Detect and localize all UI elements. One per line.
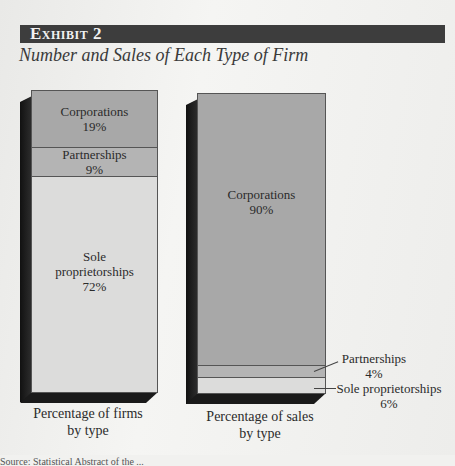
firms-bar-shadow-bottom (20, 392, 158, 403)
caption-line2: by type (18, 422, 158, 439)
callout-value: 6% (333, 396, 445, 411)
segment-label-line1: Sole (83, 249, 106, 264)
sales-bar-caption: Percentage of sales by type (190, 408, 330, 442)
segment-label-line2: proprietorships (55, 264, 134, 279)
sales-callout-sole-proprietorships: Sole proprietorships 6% (333, 381, 445, 411)
sales-segment-partnerships (198, 366, 325, 378)
firms-bar-face: Corporations 19% Partnerships 9% Sole pr… (31, 90, 158, 393)
segment-value: 9% (86, 162, 103, 177)
callout-label: Partnerships (334, 351, 414, 366)
callout-value: 4% (334, 366, 414, 381)
firms-bar-caption: Percentage of firms by type (18, 405, 158, 439)
segment-label: Corporations (228, 187, 296, 202)
caption-line1: Percentage of sales (190, 408, 330, 425)
callout-label: Sole proprietorships (333, 381, 445, 396)
segment-value: 19% (83, 119, 107, 134)
sales-callout-partnerships: Partnerships 4% (334, 351, 414, 381)
sales-bar-face: Corporations 90% (197, 93, 326, 394)
caption-line1: Percentage of firms (18, 405, 158, 422)
segment-value: 90% (250, 202, 274, 217)
caption-line2: by type (190, 425, 330, 442)
firms-segment-corporations: Corporations 19% (32, 91, 157, 148)
segment-label: Partnerships (62, 147, 126, 162)
firms-segment-sole-proprietorships: Sole proprietorships 72% (32, 177, 157, 392)
sales-bar-shadow-bottom (186, 393, 326, 404)
sales-segment-sole-proprietorships (198, 378, 325, 393)
firms-segment-partnerships: Partnerships 9% (32, 148, 157, 177)
segment-label: Corporations (61, 104, 129, 119)
chart-title: Number and Sales of Each Type of Firm (19, 45, 308, 66)
sales-segment-corporations: Corporations 90% (198, 94, 325, 366)
exhibit-label: Exhibit 2 (30, 24, 102, 44)
segment-value: 72% (83, 279, 107, 294)
source-note: Source: Statistical Abstract of the ... (0, 456, 144, 466)
